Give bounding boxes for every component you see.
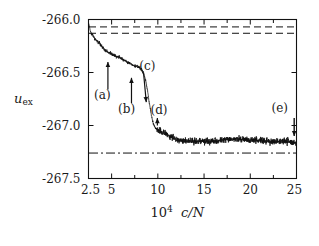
x-axis-title-prefix: 10 bbox=[151, 204, 168, 219]
annotation-label-d: (d) bbox=[150, 104, 167, 116]
x-axis-title-variable: c/N bbox=[181, 204, 204, 219]
x-axis-title: 104 c/N bbox=[151, 205, 205, 219]
y-tick-label: -266.5 bbox=[0, 67, 81, 79]
annotation-label-c: (c) bbox=[139, 60, 155, 72]
y-tick-label: -267.0 bbox=[0, 120, 81, 132]
y-axis-title: uex bbox=[14, 92, 33, 107]
axis-ticks bbox=[89, 20, 297, 179]
x-tick-label: 25 bbox=[265, 184, 319, 196]
annotation-label-b: (b) bbox=[118, 103, 135, 115]
reference-lines bbox=[89, 27, 296, 153]
figure-panel: -266.0 -266.5 -267.0 -267.5 2.5 5 10 15 … bbox=[0, 0, 318, 246]
annotation-arrows bbox=[106, 62, 297, 136]
annotation-label-a: (a) bbox=[94, 89, 111, 101]
x-axis-title-exponent: 4 bbox=[167, 204, 173, 214]
plot-frame bbox=[89, 20, 297, 179]
y-axis-title-subscript: ex bbox=[22, 97, 32, 107]
data-curve bbox=[89, 23, 297, 146]
y-tick-label: -266.0 bbox=[0, 14, 81, 26]
annotation-label-e: (e) bbox=[272, 102, 288, 114]
